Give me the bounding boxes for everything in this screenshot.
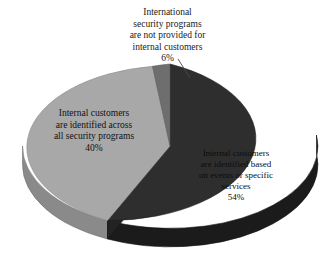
pie-label-identified-based-on-events-or-services: Internal customers are identified based … [182, 148, 290, 203]
pie-label-identified-across-all-security-programs: Internal customers are identified across… [28, 108, 160, 154]
pie-label-international-security-programs: International security programs are not … [95, 7, 240, 65]
pie-chart-figure: International security programs are not … [0, 0, 335, 272]
